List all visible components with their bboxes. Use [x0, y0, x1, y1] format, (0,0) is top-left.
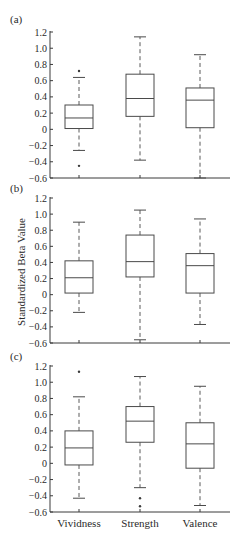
box-valence: [186, 386, 214, 505]
iqr-box: [126, 74, 154, 116]
y-tick-label: −0.6: [29, 173, 47, 184]
box-vividness: [65, 70, 93, 167]
y-tick-label: 0.4: [35, 257, 48, 268]
panel-label-b: (b): [10, 182, 23, 195]
panel-a-boxes: [65, 37, 214, 178]
box-valence: [186, 55, 214, 178]
y-tick-label: 1.2: [35, 193, 48, 204]
y-tick-label: 0.2: [35, 442, 48, 453]
box-strength: [126, 377, 154, 508]
y-tick-label: 0.4: [35, 91, 48, 102]
outlier-point: [139, 505, 141, 507]
y-tick-label: −0.4: [29, 321, 47, 332]
y-tick-label: 0: [42, 124, 47, 135]
panel-c-boxes: [65, 370, 214, 507]
panel-b-axes: 1.21.00.80.60.40.20−0.2−0.4−0.6: [29, 193, 230, 349]
panel-c-axes: 1.21.00.80.60.40.20−0.2−0.4−0.6: [29, 361, 230, 518]
iqr-box: [186, 88, 214, 128]
outlier-point: [139, 497, 141, 499]
box-vividness: [65, 370, 93, 498]
panel-b: (b) Standardized Beta Value 1.21.00.80.6…: [10, 182, 230, 349]
y-tick-label: 0.6: [35, 241, 48, 252]
y-tick-label: 0.8: [35, 225, 48, 236]
y-tick-label: 1.0: [35, 209, 48, 220]
y-tick-label: −0.2: [29, 140, 47, 151]
y-tick-label: −0.4: [29, 490, 47, 501]
panel-label-a: (a): [10, 13, 23, 26]
iqr-box: [186, 423, 214, 468]
y-tick-label: 0: [42, 458, 47, 469]
box-plot-figure: (a) 1.21.00.80.60.40.20−0.2−0.4−0.6 (b) …: [0, 0, 242, 540]
y-tick-label: 1.0: [35, 377, 48, 388]
y-tick-label: 0.4: [35, 425, 48, 436]
outlier-point: [78, 165, 80, 167]
y-tick-label: −0.4: [29, 156, 47, 167]
panel-label-c: (c): [10, 350, 23, 363]
category-label-valence: Valence: [183, 517, 218, 529]
box-vividness: [65, 222, 93, 312]
panel-c: (c) 1.21.00.80.60.40.20−0.2−0.4−0.6 Vivi…: [10, 350, 230, 529]
iqr-box: [65, 261, 93, 293]
panel-a-axes: 1.21.00.80.60.40.20−0.2−0.4−0.6: [29, 27, 230, 184]
y-tick-label: −0.6: [29, 507, 47, 518]
category-label-vividness: Vividness: [57, 517, 100, 529]
y-tick-label: 0: [42, 289, 47, 300]
y-tick-label: 0.6: [35, 75, 48, 86]
y-tick-label: −0.6: [29, 338, 47, 349]
y-tick-label: −0.2: [29, 474, 47, 485]
panel-a: (a) 1.21.00.80.60.40.20−0.2−0.4−0.6: [10, 13, 230, 184]
y-tick-label: −0.2: [29, 305, 47, 316]
y-tick-label: 0.6: [35, 409, 48, 420]
box-strength: [126, 37, 154, 160]
y-tick-label: 1.2: [35, 361, 48, 372]
outlier-point: [78, 370, 80, 372]
y-axis-label: Standardized Beta Value: [15, 218, 27, 326]
y-tick-label: 0.8: [35, 59, 48, 70]
panel-b-boxes: [65, 210, 214, 340]
category-label-strength: Strength: [121, 517, 159, 529]
iqr-box: [126, 235, 154, 277]
y-tick-label: 1.2: [35, 27, 48, 38]
iqr-box: [126, 407, 154, 443]
y-tick-label: 1.0: [35, 43, 48, 54]
box-strength: [126, 210, 154, 340]
iqr-box: [186, 254, 214, 293]
y-tick-label: 0.8: [35, 393, 48, 404]
y-tick-label: 0.2: [35, 108, 48, 119]
y-tick-label: 0.2: [35, 273, 48, 284]
iqr-box: [65, 105, 93, 129]
category-labels: Vividness Strength Valence: [57, 517, 217, 529]
outlier-point: [78, 70, 80, 72]
box-valence: [186, 219, 214, 325]
